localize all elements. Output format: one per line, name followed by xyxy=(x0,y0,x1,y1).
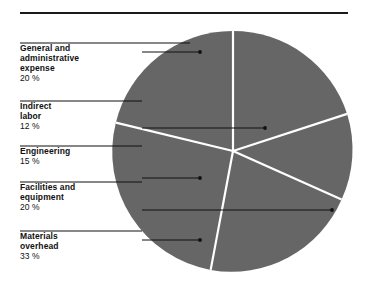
label-line-2: labor xyxy=(20,111,142,121)
label-line-2: equipment xyxy=(20,192,142,202)
label-percent: 20 % xyxy=(20,73,142,84)
label-line-1: Facilities and xyxy=(20,182,142,192)
pie-chart-figure: General and administrative expense 20 % … xyxy=(0,0,370,287)
label-line-1: General and xyxy=(20,43,142,53)
label-line-3: expense xyxy=(20,63,142,73)
callout-label-general-and-administrative-expense: General and administrative expense 20 % xyxy=(20,43,142,84)
label-line-1: Materials xyxy=(20,231,142,241)
label-line-1: Indirect xyxy=(20,101,142,111)
label-line-1: Engineering xyxy=(20,146,142,156)
leader-dot-general-and-administrative-expense xyxy=(198,50,202,54)
leader-dot-facilities-and-equipment xyxy=(330,208,334,212)
label-line-2: administrative xyxy=(20,53,142,63)
callout-label-indirect-labor: Indirect labor 12 % xyxy=(20,101,142,132)
label-percent: 12 % xyxy=(20,121,142,132)
label-line-2: overhead xyxy=(20,241,142,251)
callout-label-materials-overhead: Materials overhead 33 % xyxy=(20,231,142,262)
leader-dot-indirect-labor xyxy=(263,126,267,130)
leader-dot-materials-overhead xyxy=(198,238,202,242)
label-percent: 15 % xyxy=(20,156,142,167)
callout-label-engineering: Engineering 15 % xyxy=(20,146,142,167)
label-percent: 33 % xyxy=(20,251,142,262)
leader-dot-engineering xyxy=(198,176,202,180)
callout-label-facilities-and-equipment: Facilities and equipment 20 % xyxy=(20,182,142,213)
label-percent: 20 % xyxy=(20,202,142,213)
